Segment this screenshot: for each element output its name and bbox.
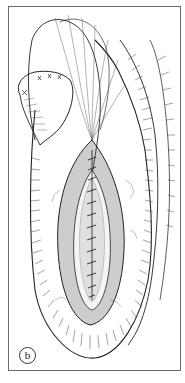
surgical-illustration (0, 0, 185, 383)
end-sutures (22, 74, 61, 95)
panel-label-badge: b (19, 347, 36, 364)
sutured-loop-end (18, 71, 72, 145)
mesentery-fan (55, 15, 125, 140)
